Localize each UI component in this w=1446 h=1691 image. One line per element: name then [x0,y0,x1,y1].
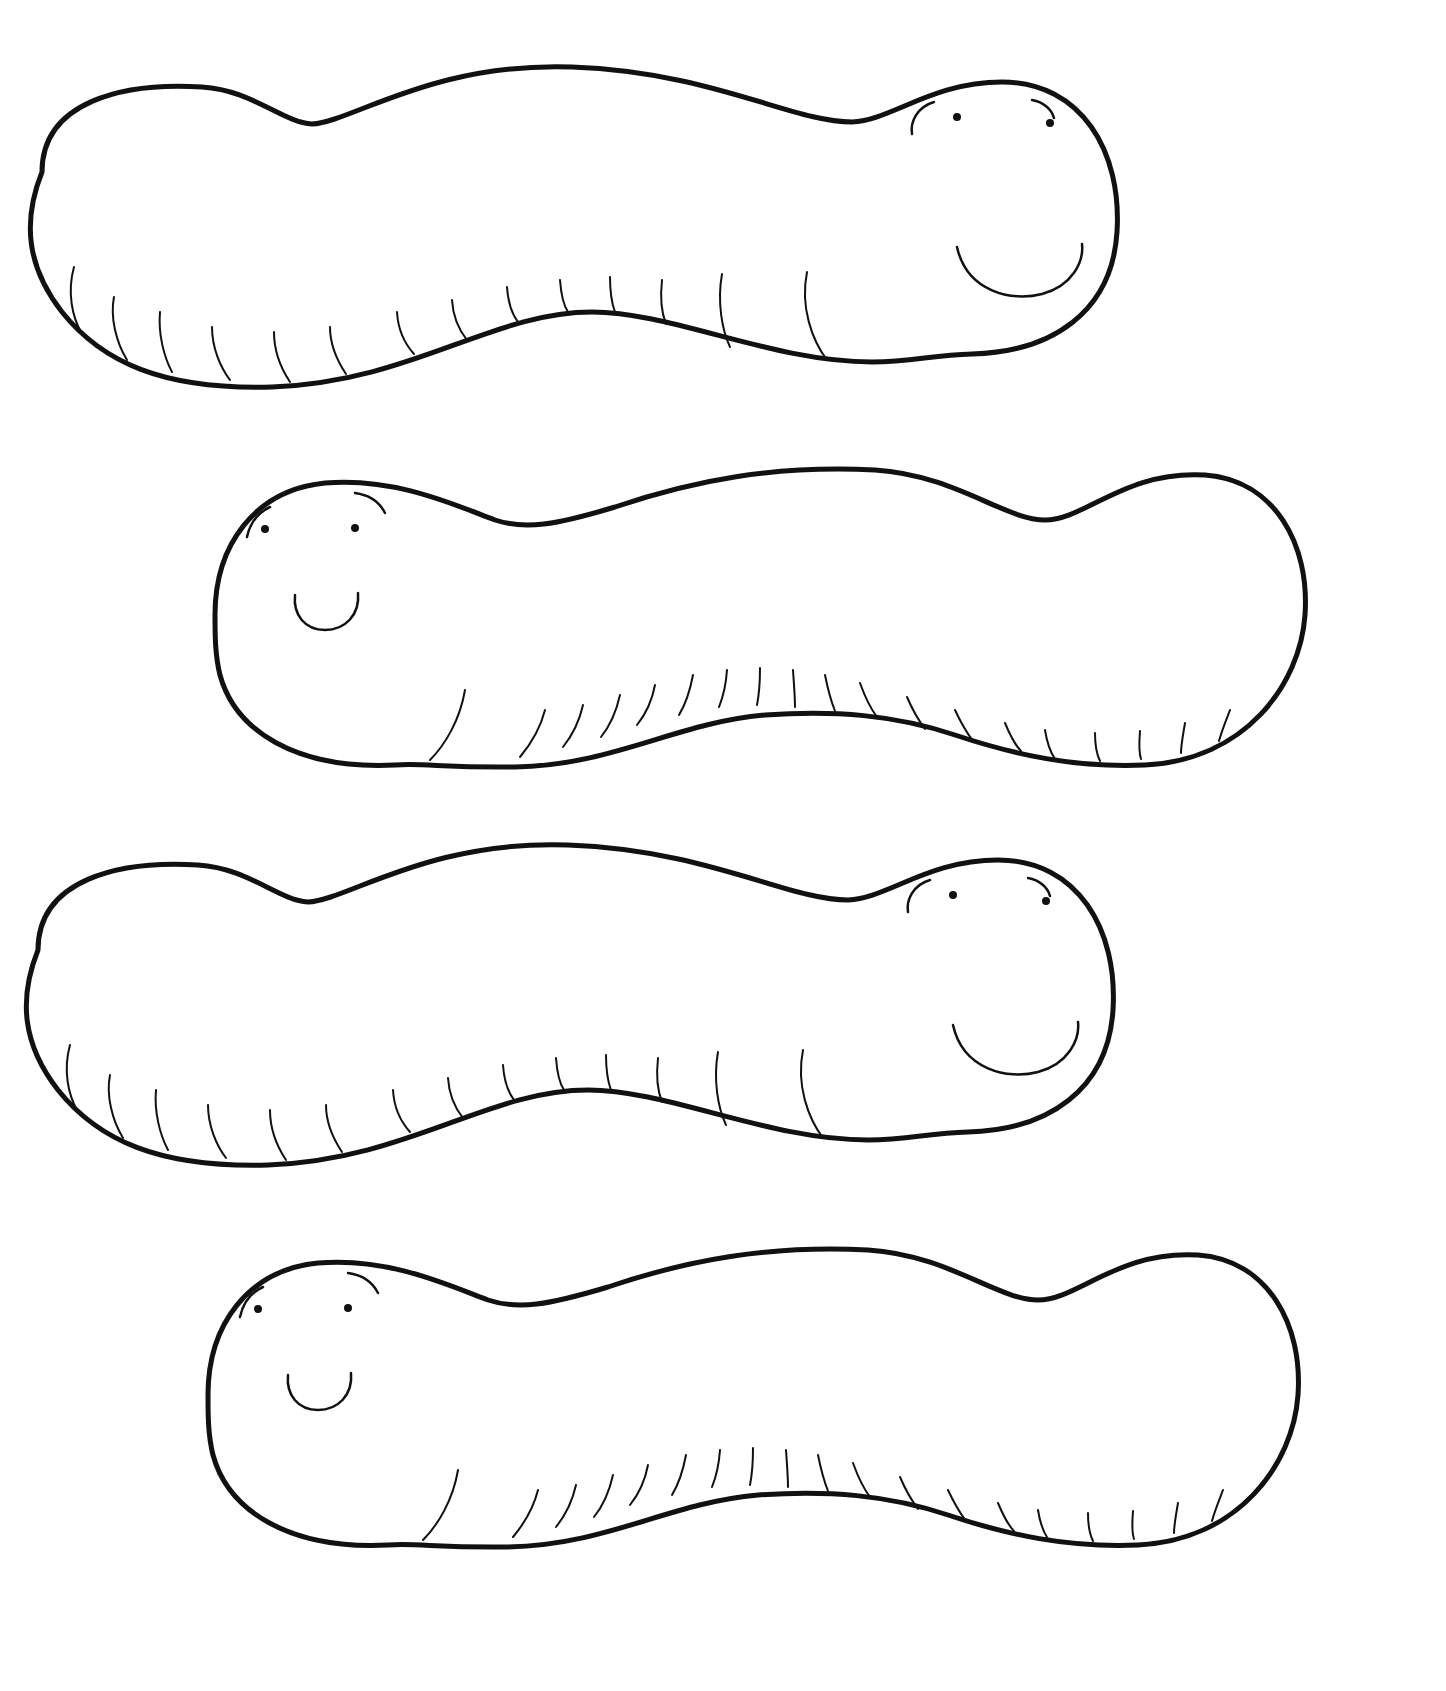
worms-illustration [0,0,1446,1691]
worm-4 [208,1249,1298,1547]
worm-2 [215,469,1305,767]
worm-1 [30,67,1117,388]
coloring-page [0,0,1446,1691]
worm-3 [26,845,1113,1166]
